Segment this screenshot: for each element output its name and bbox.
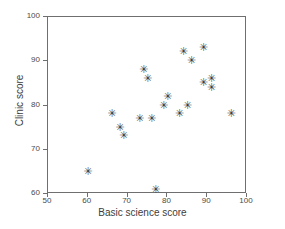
data-point: ✳	[159, 101, 168, 110]
y-axis-tick	[43, 193, 47, 194]
scatter-chart: ✳✳✳✳✳✳✳✳✳✳✳✳✳✳✳✳✳✳✳✳ Basic science score…	[0, 0, 285, 229]
data-point: ✳	[143, 74, 152, 83]
x-axis-tick-label: 90	[194, 196, 218, 205]
y-axis-tick	[43, 60, 47, 61]
data-point: ✳	[199, 43, 208, 52]
data-point: ✳	[207, 74, 216, 83]
y-axis-tick-label: 100	[20, 11, 40, 20]
data-point: ✳	[183, 101, 192, 110]
data-point: ✳	[107, 109, 116, 118]
data-point: ✳	[147, 114, 156, 123]
data-point: ✳	[175, 109, 184, 118]
y-axis-tick-label: 80	[20, 100, 40, 109]
data-point: ✳	[199, 78, 208, 87]
plot-area: ✳✳✳✳✳✳✳✳✳✳✳✳✳✳✳✳✳✳✳✳	[47, 16, 246, 193]
data-point: ✳	[135, 114, 144, 123]
y-axis-tick	[43, 149, 47, 150]
y-axis-tick	[43, 105, 47, 106]
data-point: ✳	[119, 131, 128, 140]
data-point: ✳	[151, 185, 160, 194]
x-axis-tick-label: 60	[75, 196, 99, 205]
x-axis-tick-label: 80	[154, 196, 178, 205]
data-point: ✳	[207, 83, 216, 92]
data-point: ✳	[179, 47, 188, 56]
data-point: ✳	[83, 167, 92, 176]
y-axis-tick-label: 60	[20, 188, 40, 197]
data-point: ✳	[139, 65, 148, 74]
x-axis-tick-label: 50	[35, 196, 59, 205]
y-axis-tick-label: 70	[20, 144, 40, 153]
x-axis-tick-label: 100	[234, 196, 258, 205]
data-point: ✳	[187, 56, 196, 65]
data-point: ✳	[163, 92, 172, 101]
data-point: ✳	[227, 109, 236, 118]
y-axis-tick-label: 90	[20, 55, 40, 64]
x-axis-label: Basic science score	[0, 207, 285, 218]
y-axis-tick	[43, 16, 47, 17]
data-point: ✳	[115, 123, 124, 132]
x-axis-tick-label: 70	[115, 196, 139, 205]
